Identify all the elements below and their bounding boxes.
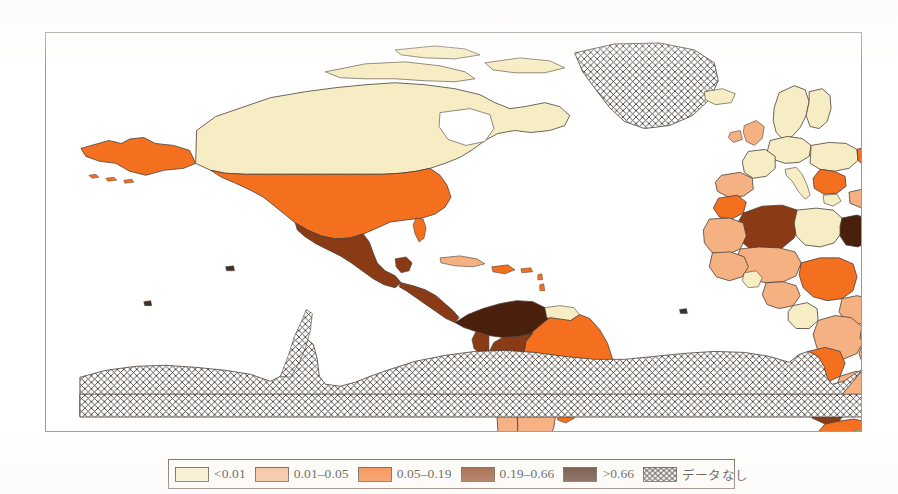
region-alaska [81, 137, 196, 175]
region-aleutians [89, 174, 134, 183]
legend-label-0-01-0-05: 0.01–0.05 [294, 466, 349, 482]
legend-swatch-gt-0-66 [563, 467, 597, 482]
legend-label-nodata: データなし [682, 465, 748, 484]
region-uk-ireland [728, 121, 764, 146]
region-russia [857, 123, 861, 188]
region-guinea-coast [709, 252, 748, 281]
region-libya [794, 208, 842, 247]
region-finland [806, 89, 831, 129]
region-canada-arctic-islands [325, 46, 564, 82]
legend-item-1: 0.01–0.05 [255, 460, 358, 488]
region-iceland [704, 89, 735, 105]
legend-item-3: 0.19–0.66 [461, 460, 564, 488]
land-layer [80, 43, 861, 431]
region-lesser-antilles [538, 274, 545, 291]
region-antarctica-base-nodata [80, 394, 861, 417]
region-florida [413, 218, 426, 242]
region-central-america [399, 283, 459, 323]
legend-swatch-0-01-0-05 [255, 467, 289, 482]
crosshatch-icon [644, 468, 676, 481]
region-chad-sudan [799, 258, 857, 301]
region-turkey [849, 187, 861, 211]
legend-label-0-19-0-66: 0.19–0.66 [500, 466, 555, 482]
legend-label-0-05-0-19: 0.05–0.19 [397, 466, 452, 482]
region-cameroon-gabon [788, 303, 818, 329]
region-iberia [715, 172, 753, 197]
region-cuba [440, 256, 485, 267]
map-frame [45, 32, 862, 432]
legend-swatch-0-19-0-66 [461, 467, 495, 482]
legend-item-4: >0.66 [563, 460, 643, 488]
legend-item-0: <0.01 [175, 460, 255, 488]
region-greenland-nodata [575, 43, 719, 129]
region-italy [785, 167, 810, 199]
region-balkans [813, 169, 846, 194]
legend-swatch-0-05-0-19 [358, 467, 392, 482]
region-france [742, 149, 775, 178]
region-puerto-rico [521, 268, 533, 273]
region-nigeria [762, 282, 800, 309]
region-hispaniola [492, 265, 515, 274]
legend-label-gt-0-66: >0.66 [602, 466, 634, 482]
region-egypt [840, 215, 861, 247]
region-morocco [713, 195, 746, 219]
legend-item-2: 0.05–0.19 [358, 460, 461, 488]
world-choropleth-figure: <0.01 0.01–0.05 0.05–0.19 0.19–0.66 >0.6… [0, 0, 898, 494]
region-yucatan [395, 257, 412, 273]
region-norway-sweden [773, 86, 809, 140]
region-central-europe [810, 142, 858, 171]
legend-label-lt-0-01: <0.01 [214, 466, 246, 482]
region-algeria [735, 205, 800, 252]
region-canada [196, 83, 570, 175]
region-greece [823, 194, 841, 206]
legend-swatch-lt-0-01 [175, 467, 209, 482]
legend-swatch-nodata [643, 467, 677, 482]
world-map-svg [46, 33, 861, 431]
map-legend: <0.01 0.01–0.05 0.05–0.19 0.19–0.66 >0.6… [168, 459, 735, 489]
legend-item-5: データなし [643, 460, 750, 488]
